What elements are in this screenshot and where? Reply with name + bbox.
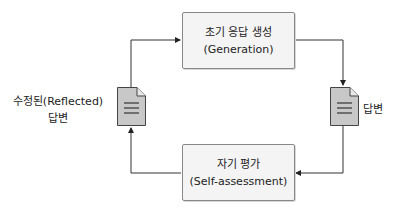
reflected-answer-line2: 답변	[2, 110, 114, 127]
edge-reflected-to-generation	[131, 40, 180, 87]
reflected-answer-line1: 수정된(Reflected)	[2, 93, 114, 110]
reflected-answer-label: 수정된(Reflected) 답변	[2, 93, 114, 127]
self-assessment-subtitle: (Self-assessment)	[190, 173, 288, 190]
generation-title: 초기 응답 생성	[205, 24, 272, 41]
answer-document-icon	[330, 87, 359, 126]
generation-subtitle: (Generation)	[204, 41, 274, 58]
reflected-answer-document-icon	[117, 87, 146, 126]
self-assessment-box: 자기 평가 (Self-assessment)	[182, 144, 295, 201]
edge-generation-to-answer	[294, 40, 343, 85]
self-assessment-title: 자기 평가	[217, 156, 261, 173]
edge-assessment-to-reflected	[131, 128, 181, 173]
edge-answer-to-assessment	[296, 126, 343, 173]
answer-label: 답변	[363, 101, 397, 118]
generation-box: 초기 응답 생성 (Generation)	[182, 12, 295, 69]
